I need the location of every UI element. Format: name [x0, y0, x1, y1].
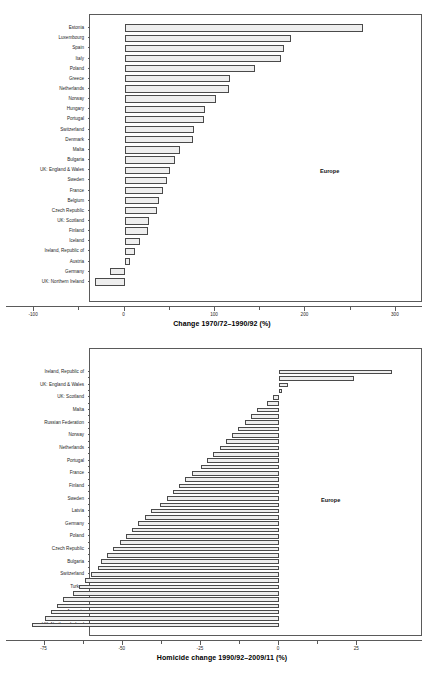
chart-bottom-homicide-change-1990-2009: Ireland, Republic ofUK: England & WalesU…: [0, 340, 444, 679]
bar-row: [90, 623, 421, 628]
bar-row: [90, 136, 421, 143]
bar-row: [90, 439, 421, 444]
bar: [125, 65, 255, 72]
category-label: UK: England & Wales: [40, 167, 84, 172]
bar-row: [90, 376, 421, 381]
bar: [125, 197, 159, 204]
category-label: Ireland, Republic of: [44, 248, 84, 253]
bar: [273, 395, 279, 400]
bar-row: [90, 126, 421, 133]
bar: [279, 383, 288, 388]
bar-row: [90, 146, 421, 153]
top-x-axis: -1000100200300: [6, 306, 422, 307]
bar-row: [90, 248, 421, 255]
bar: [257, 408, 279, 413]
bar: [132, 528, 279, 533]
x-tick: [356, 641, 357, 645]
bar: [125, 167, 170, 174]
bar: [201, 465, 279, 470]
bar: [45, 616, 280, 621]
bar-row: [90, 420, 421, 425]
x-tick-minor: [317, 641, 318, 644]
bar-row: [90, 515, 421, 520]
x-tick: [214, 307, 215, 311]
bar-row: [90, 528, 421, 533]
bar: [279, 376, 354, 381]
bar-row: [90, 427, 421, 432]
category-label: Finland: [69, 228, 84, 233]
bar-row: [90, 217, 421, 224]
category-label: France: [70, 470, 84, 475]
bar: [145, 515, 279, 520]
bar-row: [90, 177, 421, 184]
x-tick-label: 100: [210, 312, 218, 317]
category-label: Finland: [69, 482, 84, 487]
bar-row: [90, 268, 421, 275]
bar: [125, 136, 194, 143]
bar-row: [90, 35, 421, 42]
bar: [185, 477, 279, 482]
category-label: Germany: [65, 520, 84, 525]
bar-row: [90, 496, 421, 501]
x-tick-minor: [83, 641, 84, 644]
bar-row: [90, 116, 421, 123]
x-tick-minor: [78, 307, 79, 310]
bar-row: [90, 106, 421, 113]
category-label: Switzerland: [60, 571, 84, 576]
bar-row: [90, 207, 421, 214]
x-tick-label: 0: [122, 312, 125, 317]
bar: [85, 578, 279, 583]
bar-row: [90, 433, 421, 438]
bar-row: [90, 65, 421, 72]
bar-row: [90, 383, 421, 388]
bar: [125, 126, 195, 133]
category-label: UK: Scotland: [57, 394, 84, 399]
bar: [98, 566, 279, 571]
bar: [125, 35, 291, 42]
x-tick: [395, 307, 396, 311]
bar-row: [90, 452, 421, 457]
x-tick-label: -100: [29, 312, 38, 317]
bar: [125, 217, 149, 224]
bar: [125, 177, 168, 184]
bar: [95, 278, 125, 285]
bar-row: [90, 227, 421, 234]
bar: [125, 75, 231, 82]
bar: [126, 534, 279, 539]
category-label: Bulgaria: [67, 558, 84, 563]
bar: [125, 258, 130, 265]
bar-row: [90, 477, 421, 482]
x-tick-minor: [161, 641, 162, 644]
bar: [107, 553, 279, 558]
category-label: Iceland: [69, 238, 84, 243]
category-label: Estonia: [69, 25, 84, 30]
category-label: Spain: [72, 45, 84, 50]
bar: [125, 207, 158, 214]
category-label: Italy: [76, 55, 84, 60]
bar: [120, 540, 280, 545]
bar-row: [90, 55, 421, 62]
bar-row: [90, 278, 421, 285]
bar: [110, 268, 124, 275]
bar: [125, 238, 140, 245]
bar: [192, 471, 280, 476]
category-label: Belgium: [67, 197, 84, 202]
bar-row: [90, 559, 421, 564]
bar-row: [90, 604, 421, 609]
bar: [125, 95, 216, 102]
bar: [151, 509, 279, 514]
bottom-region-annotation: Europe: [321, 497, 340, 503]
bar-row: [90, 547, 421, 552]
category-label: Sweden: [67, 495, 84, 500]
bar-row: [90, 616, 421, 621]
bottom-bars: [90, 349, 421, 635]
bar-row: [90, 446, 421, 451]
bar-row: [90, 258, 421, 265]
x-tick-minor: [169, 307, 170, 310]
bar-row: [90, 484, 421, 489]
x-tick: [122, 641, 123, 645]
bar-row: [90, 540, 421, 545]
category-label: UK: England & Wales: [40, 381, 84, 386]
bar: [125, 187, 163, 194]
bar: [125, 227, 149, 234]
